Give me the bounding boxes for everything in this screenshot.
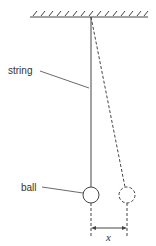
displaced-string-line bbox=[91, 17, 125, 187]
ball-leader-line bbox=[42, 187, 83, 193]
displaced-ball bbox=[119, 187, 135, 203]
displacement-arrow bbox=[91, 226, 127, 230]
ceiling-support bbox=[30, 11, 148, 17]
string-label: string bbox=[8, 65, 32, 76]
ball-label: ball bbox=[21, 182, 37, 193]
pendulum-diagram: x string ball bbox=[0, 0, 156, 246]
displacement-label: x bbox=[105, 231, 111, 243]
ball bbox=[83, 187, 99, 203]
string-leader-line bbox=[40, 71, 89, 88]
